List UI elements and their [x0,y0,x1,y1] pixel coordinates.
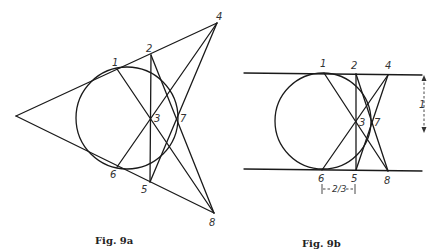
offset-dimension-label: 2/3 [332,184,347,194]
point-label-5: 5 [351,173,357,184]
point-label-5: 5 [141,184,147,195]
point-label-4: 4 [385,60,391,71]
point-label-2: 2 [146,43,152,54]
line-6-4 [117,23,217,167]
point-label-7: 7 [180,113,187,124]
figure-9a: 1 2 3 4 5 6 7 8 Fig. 9a [16,11,222,246]
point-label-6: 6 [110,169,116,180]
diagram-canvas: 1 2 3 4 5 6 7 8 Fig. 9a 1 2 [0,0,439,252]
lower-tangent-line [16,116,214,213]
point-label-8: 8 [209,217,215,228]
arrow-up-icon [422,75,427,81]
arrow-down-icon [422,127,427,133]
figure-9b: 1 2/3 1 2 3 4 5 6 7 8 Fig. 9b [244,58,427,249]
point-label-1: 1 [320,58,326,69]
bottom-tangent-line [244,169,422,171]
point-label-2: 2 [351,60,357,71]
caption-fig-9b: Fig. 9b [302,238,341,249]
point-label-4: 4 [216,11,222,22]
point-label-8: 8 [384,175,390,186]
point-label-3: 3 [359,117,365,128]
point-label-1: 1 [112,57,118,68]
caption-fig-9a: Fig. 9a [95,235,134,246]
upper-tangent-line [16,23,217,116]
point-label-7: 7 [374,117,381,128]
point-label-3: 3 [154,113,160,124]
line-5-4 [150,23,217,182]
point-label-6: 6 [318,173,324,184]
height-dimension-label: 1 [419,99,425,110]
